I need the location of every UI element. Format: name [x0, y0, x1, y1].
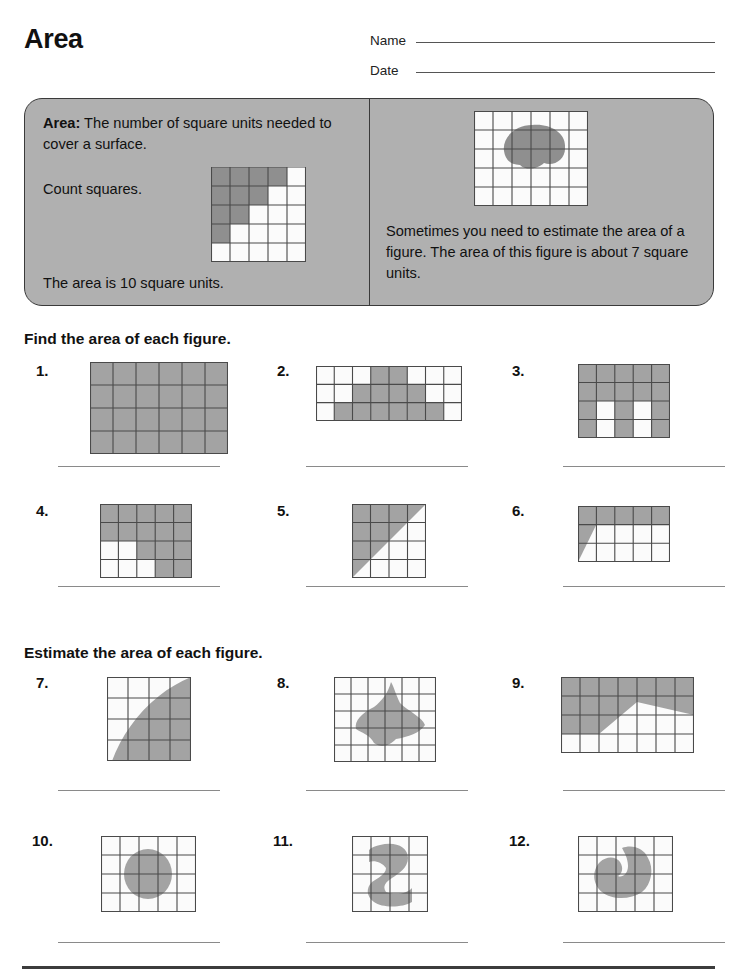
name-label: Name — [370, 33, 416, 48]
example-blob-grid — [474, 111, 588, 206]
problem-2-figure — [316, 366, 462, 421]
answer-line-2[interactable] — [306, 466, 468, 467]
answer-line-11[interactable] — [306, 942, 468, 943]
count-squares-label: Count squares. — [43, 181, 142, 197]
problem-8-figure — [334, 677, 436, 762]
answer-line-9[interactable] — [563, 790, 725, 791]
answer-line-3[interactable] — [563, 466, 725, 467]
definition-right-panel: Sometimes you need to estimate the area … — [370, 99, 713, 305]
problem-6-grid — [578, 506, 670, 562]
problem-10-grid — [101, 836, 196, 912]
problem-number-6: 6. — [512, 502, 525, 519]
problem-number-9: 9. — [512, 674, 525, 691]
example-blob-svg — [474, 111, 588, 206]
problem-2-grid — [316, 366, 462, 421]
problem-5-figure — [352, 504, 426, 578]
definition-left-panel: Area: The number of square units needed … — [25, 99, 370, 305]
problem-12-figure — [578, 836, 673, 912]
problem-10-figure — [101, 836, 196, 912]
answer-line-8[interactable] — [306, 790, 468, 791]
blob-shape — [504, 125, 565, 169]
problem-9-grid — [561, 677, 694, 753]
problem-4-figure — [100, 504, 192, 578]
example-staircase-svg — [211, 167, 306, 262]
problem-number-7: 7. — [36, 674, 49, 691]
date-row: Date — [370, 63, 715, 93]
definition-text: Area: The number of square units needed … — [43, 113, 353, 155]
problem-9-figure — [561, 677, 694, 753]
page-title: Area — [24, 24, 83, 55]
problem-number-12: 12. — [509, 832, 530, 849]
problem-number-8: 8. — [277, 674, 290, 691]
definition-term: Area: — [43, 115, 80, 131]
problem-1-grid — [90, 362, 228, 454]
section-heading-find: Find the area of each figure. — [24, 330, 231, 348]
estimate-explanation: Sometimes you need to estimate the area … — [386, 221, 701, 284]
answer-line-5[interactable] — [306, 586, 468, 587]
problem-12-grid — [578, 836, 673, 912]
problem-8-grid — [334, 677, 436, 762]
date-input-line[interactable] — [416, 71, 715, 73]
problem-number-4: 4. — [36, 502, 49, 519]
date-label: Date — [370, 63, 416, 78]
problem-11-grid — [352, 836, 428, 912]
answer-line-1[interactable] — [58, 466, 220, 467]
problem-11-figure — [352, 836, 428, 912]
answer-line-10[interactable] — [58, 942, 220, 943]
example-staircase-grid — [211, 167, 306, 262]
definition-box: Area: The number of square units needed … — [24, 98, 714, 306]
answer-line-12[interactable] — [563, 942, 725, 943]
answer-line-7[interactable] — [58, 790, 220, 791]
problem-number-2: 2. — [277, 362, 290, 379]
definition-body: The number of square units needed to cov… — [43, 115, 332, 152]
section-heading-estimate: Estimate the area of each figure. — [24, 644, 263, 662]
worksheet-page: Area Name Date Area: The number of squar… — [0, 0, 737, 979]
problem-3-grid — [578, 364, 670, 438]
problem-number-3: 3. — [512, 362, 525, 379]
problem-3-figure — [578, 364, 670, 438]
problem-number-1: 1. — [36, 362, 49, 379]
problem-7-figure — [107, 677, 191, 761]
footer-rule — [22, 966, 715, 969]
problem-number-11: 11. — [273, 832, 293, 849]
problem-number-10: 10. — [32, 832, 53, 849]
name-input-line[interactable] — [416, 41, 715, 43]
problem-6-figure — [578, 506, 670, 562]
name-date-block: Name Date — [370, 33, 715, 93]
answer-line-6[interactable] — [563, 586, 725, 587]
problem-1-figure — [90, 362, 228, 454]
problem-4-grid — [100, 504, 192, 578]
problem-5-grid — [352, 504, 426, 578]
answer-line-4[interactable] — [58, 586, 220, 587]
name-row: Name — [370, 33, 715, 63]
problem-number-5: 5. — [277, 502, 290, 519]
area-result-text: The area is 10 square units. — [43, 275, 224, 291]
problem-7-grid — [107, 677, 191, 761]
